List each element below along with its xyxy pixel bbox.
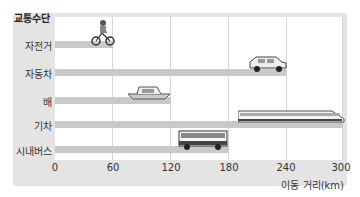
x-tick: 300	[331, 162, 350, 173]
gridline	[286, 17, 287, 160]
gridline	[228, 17, 229, 160]
bus-icon	[178, 130, 228, 150]
y-axis-title: 교통수단	[14, 10, 50, 25]
category-label: 시내버스	[16, 143, 52, 158]
x-tick: 180	[219, 162, 238, 173]
category-label: 자동차	[25, 66, 52, 81]
car-icon	[248, 55, 288, 73]
x-tick: 0	[52, 162, 58, 173]
x-tick: 120	[161, 162, 180, 173]
bicycle-icon	[91, 19, 115, 47]
category-label: 자전거	[25, 38, 52, 53]
x-tick: 60	[107, 162, 120, 173]
category-label: 배	[43, 94, 52, 109]
boat-icon	[127, 84, 171, 100]
x-axis-title: 이동 거리(km)	[281, 177, 344, 192]
train-icon	[238, 109, 346, 123]
gridline	[342, 17, 343, 160]
plot-area	[55, 17, 343, 160]
x-tick: 240	[276, 162, 295, 173]
category-label: 기차	[34, 118, 52, 133]
